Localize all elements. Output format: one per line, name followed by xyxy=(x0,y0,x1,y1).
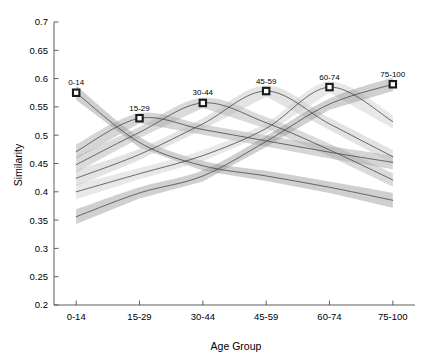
peak-marker-75-100[interactable] xyxy=(390,81,396,87)
y-tick-label: 0.45 xyxy=(30,158,49,169)
x-tick-label: 30-44 xyxy=(191,311,215,322)
y-tick-label: 0.2 xyxy=(35,299,48,310)
peak-marker-30-44[interactable] xyxy=(200,100,206,106)
peak-marker-label-60-74: 60-74 xyxy=(319,73,340,82)
x-tick-label: 45-59 xyxy=(254,311,278,322)
peak-marker-label-0-14: 0-14 xyxy=(68,78,85,87)
y-tick-label: 0.25 xyxy=(30,271,49,282)
y-tick-label: 0.4 xyxy=(35,186,48,197)
x-tick-label: 15-29 xyxy=(127,311,151,322)
x-tick-label: 0-14 xyxy=(67,311,86,322)
peak-marker-label-30-44: 30-44 xyxy=(193,88,214,97)
y-tick-label: 0.5 xyxy=(35,130,48,141)
y-tick-label: 0.6 xyxy=(35,73,48,84)
y-axis-title: Similarity xyxy=(12,143,24,186)
similarity-by-age-line-chart: 0.20.250.30.350.40.450.50.550.60.650.7 0… xyxy=(0,0,426,360)
y-tick-label: 0.65 xyxy=(30,45,49,56)
peak-marker-0-14[interactable] xyxy=(73,90,79,96)
peak-marker-45-59[interactable] xyxy=(263,88,269,94)
x-axis-title: Age Group xyxy=(211,340,262,352)
y-tick-label: 0.7 xyxy=(35,16,48,27)
confidence-bands xyxy=(76,77,393,224)
x-tick-label: 75-100 xyxy=(378,311,408,322)
peak-marker-60-74[interactable] xyxy=(326,84,332,90)
y-tick-label: 0.35 xyxy=(30,215,49,226)
peak-marker-label-75-100: 75-100 xyxy=(380,70,405,79)
peak-marker-label-15-29: 15-29 xyxy=(129,104,150,113)
peak-marker-label-45-59: 45-59 xyxy=(256,77,277,86)
chart-figure: 0.20.250.30.350.40.450.50.550.60.650.7 0… xyxy=(0,0,426,360)
x-tick-label: 60-74 xyxy=(317,311,341,322)
x-axis-ticks: 0-1415-2930-4445-5960-7475-100 xyxy=(67,301,408,323)
y-tick-label: 0.3 xyxy=(35,243,48,254)
y-tick-label: 0.55 xyxy=(30,101,49,112)
peak-marker-15-29[interactable] xyxy=(136,115,142,121)
